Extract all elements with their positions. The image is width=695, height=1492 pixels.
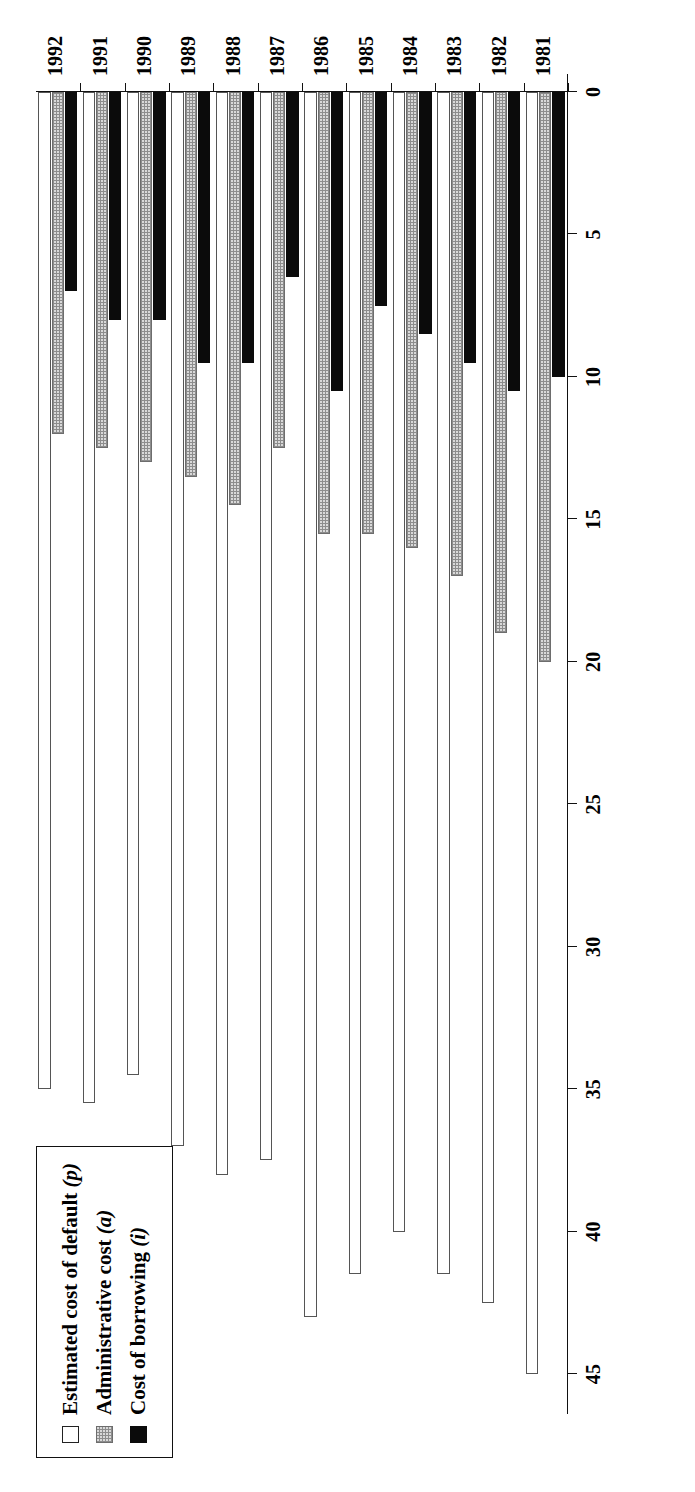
bar-1991-a <box>96 92 108 448</box>
legend-swatch-stippled-icon <box>96 1426 113 1443</box>
value-axis-tick-label: 0 <box>582 87 605 97</box>
bar-1985-a <box>362 92 374 534</box>
bar-1983-p <box>437 92 449 1274</box>
value-axis-tick <box>568 1231 577 1232</box>
bar-1986-i <box>331 92 343 391</box>
category-axis-tick <box>391 83 392 92</box>
bar-1988-p <box>216 92 228 1175</box>
value-axis-tick <box>568 661 577 662</box>
bar-1985-i <box>375 92 387 306</box>
legend-swatch-white-icon <box>62 1426 79 1443</box>
category-label-1991: 1991 <box>89 36 112 76</box>
bar-1990-p <box>127 92 139 1075</box>
category-axis-tick <box>213 83 214 92</box>
bar-1985-p <box>349 92 361 1274</box>
category-label-1982: 1982 <box>488 36 511 76</box>
value-axis-tick-label: 30 <box>582 936 605 956</box>
value-axis-tick-label: 15 <box>582 509 605 529</box>
category-axis-tick <box>169 83 170 92</box>
value-axis-tick <box>568 1373 577 1374</box>
category-label-1989: 1989 <box>177 36 200 76</box>
category-axis-tick <box>524 83 525 92</box>
bar-1981-p <box>526 92 538 1374</box>
bar-1987-a <box>273 92 285 448</box>
category-label-1985: 1985 <box>355 36 378 76</box>
category-label-1981: 1981 <box>532 36 555 76</box>
bar-1989-i <box>198 92 210 363</box>
value-axis-tick-label: 45 <box>582 1364 605 1384</box>
bar-1984-i <box>419 92 431 334</box>
legend-swatch-black-icon <box>130 1426 147 1443</box>
category-label-1986: 1986 <box>310 36 333 76</box>
bar-1981-a <box>539 92 551 662</box>
category-label-1983: 1983 <box>443 36 466 76</box>
category-label-1992: 1992 <box>44 36 67 76</box>
value-axis-tick <box>568 946 577 947</box>
bar-1986-p <box>304 92 316 1317</box>
value-axis-tick-label: 25 <box>582 794 605 814</box>
category-axis-tick <box>258 83 259 92</box>
value-axis-tick-label: 35 <box>582 1079 605 1099</box>
bar-1991-p <box>83 92 95 1103</box>
value-axis-tick <box>568 233 577 234</box>
bar-1983-a <box>451 92 463 576</box>
bar-1981-i <box>552 92 564 377</box>
value-axis-tick-label: 10 <box>582 367 605 387</box>
value-axis-tick-label: 40 <box>582 1221 605 1241</box>
category-axis-tick <box>435 83 436 92</box>
category-label-1990: 1990 <box>133 36 156 76</box>
bar-1983-i <box>464 92 476 363</box>
bar-1990-a <box>140 92 152 462</box>
bar-1982-p <box>482 92 494 1303</box>
bar-1988-i <box>242 92 254 363</box>
bar-1992-i <box>65 92 77 291</box>
value-axis-tick-label: 20 <box>582 652 605 672</box>
category-label-1987: 1987 <box>266 36 289 76</box>
category-axis-tick <box>302 83 303 92</box>
category-axis-tick <box>80 83 81 92</box>
bar-1990-i <box>153 92 165 320</box>
plot-area: 1981198219831984198519861987198819891990… <box>36 74 596 1414</box>
chart-canvas: Estimated cost of default (p) Administra… <box>0 0 695 1492</box>
value-axis: 454035302520151050 <box>567 74 568 1414</box>
value-axis-tick <box>568 376 577 377</box>
value-axis-tick-label: 5 <box>582 229 605 239</box>
bar-1982-i <box>508 92 520 391</box>
bar-1988-a <box>229 92 241 505</box>
category-axis-tick <box>125 83 126 92</box>
bar-1982-a <box>495 92 507 633</box>
value-axis-tick <box>568 91 577 92</box>
bar-1986-a <box>318 92 330 534</box>
bar-1992-a <box>52 92 64 434</box>
bar-1987-i <box>286 92 298 277</box>
category-label-1984: 1984 <box>399 36 422 76</box>
category-label-1988: 1988 <box>222 36 245 76</box>
value-axis-tick <box>568 518 577 519</box>
value-axis-tick <box>568 1088 577 1089</box>
bar-1984-a <box>406 92 418 548</box>
bar-1989-a <box>185 92 197 477</box>
category-axis-tick <box>479 83 480 92</box>
value-axis-tick <box>568 803 577 804</box>
category-axis-tick <box>346 83 347 92</box>
bar-1984-p <box>393 92 405 1232</box>
bar-1989-p <box>171 92 183 1146</box>
bar-1991-i <box>109 92 121 320</box>
bar-1992-p <box>38 92 50 1089</box>
bar-1987-p <box>260 92 272 1160</box>
